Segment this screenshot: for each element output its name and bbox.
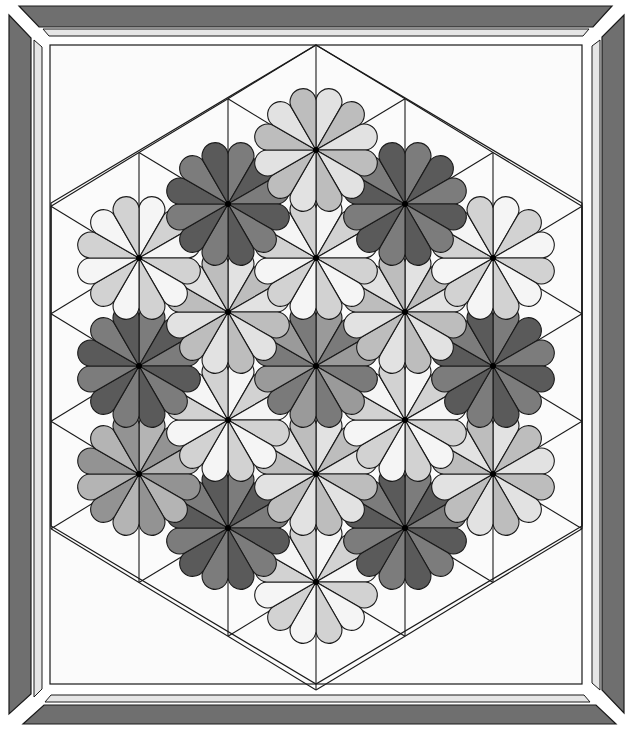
flower-center-dot [402,417,408,423]
flower-center-dot [490,255,496,261]
flower-center-dot [313,471,319,477]
frame-dark-bottom [23,705,616,724]
flower-center-dot [225,417,231,423]
flower-center-dot [313,363,319,369]
flower-center-dot [490,471,496,477]
flower-center-dot [402,525,408,531]
frame-dark-left [9,15,31,714]
flower-center-dot [313,147,319,153]
flower-center-dot [490,363,496,369]
frame-dark-top [19,6,612,27]
flower-center-dot [313,255,319,261]
flower-center-dot [136,471,142,477]
flower-center-dot [136,255,142,261]
flower-center-dot [402,309,408,315]
flower-center-dot [402,201,408,207]
flower-center-dot [225,309,231,315]
frame-light-left [34,40,42,697]
flower-center-dot [225,525,231,531]
flower-center-dot [225,201,231,207]
frame-light-bottom [45,695,590,702]
frame-light-top [43,29,589,36]
dresden-plate-flower [255,89,378,212]
flower-center-dot [313,579,319,585]
frame-light-right [592,40,600,690]
quilt-svg [0,0,632,738]
flower-center-dot [136,363,142,369]
frame-dark-right [602,15,624,713]
quilt-illustration [0,0,632,738]
